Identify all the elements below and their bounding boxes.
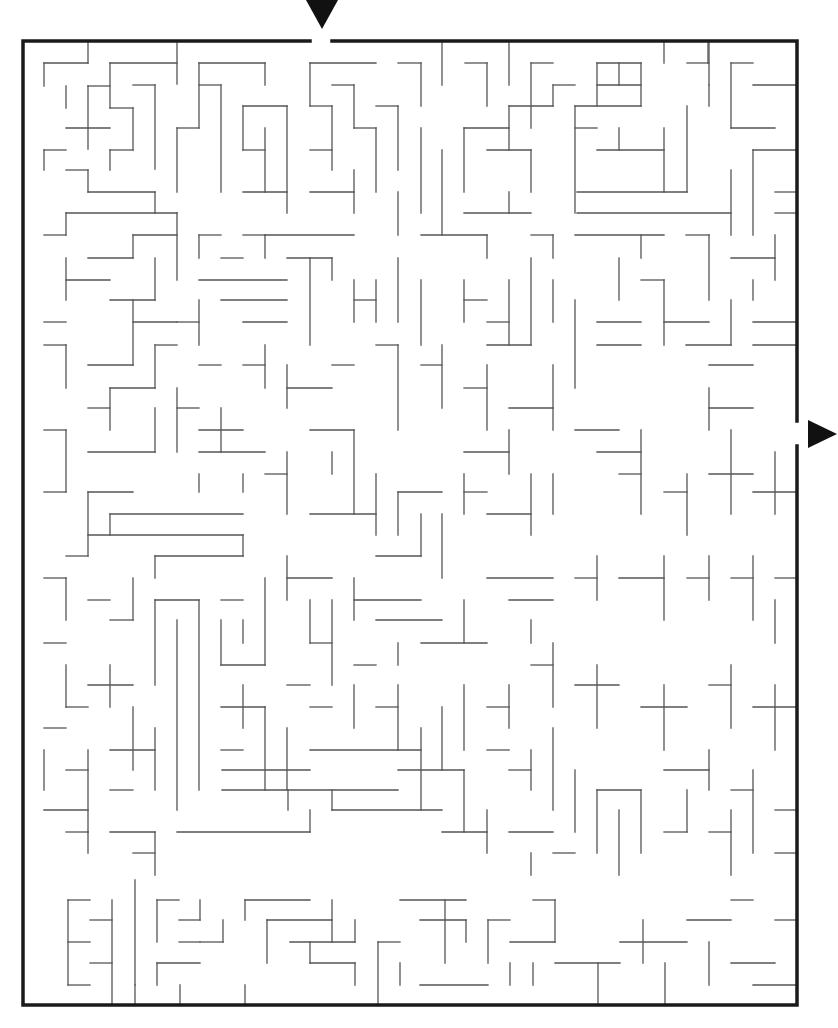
exit-right-arrow-icon <box>808 420 837 448</box>
maze-board[interactable] <box>0 0 838 1028</box>
entrance-down-arrow-icon <box>306 0 338 29</box>
maze-walls <box>44 43 797 1005</box>
maze-frame <box>23 41 797 1005</box>
